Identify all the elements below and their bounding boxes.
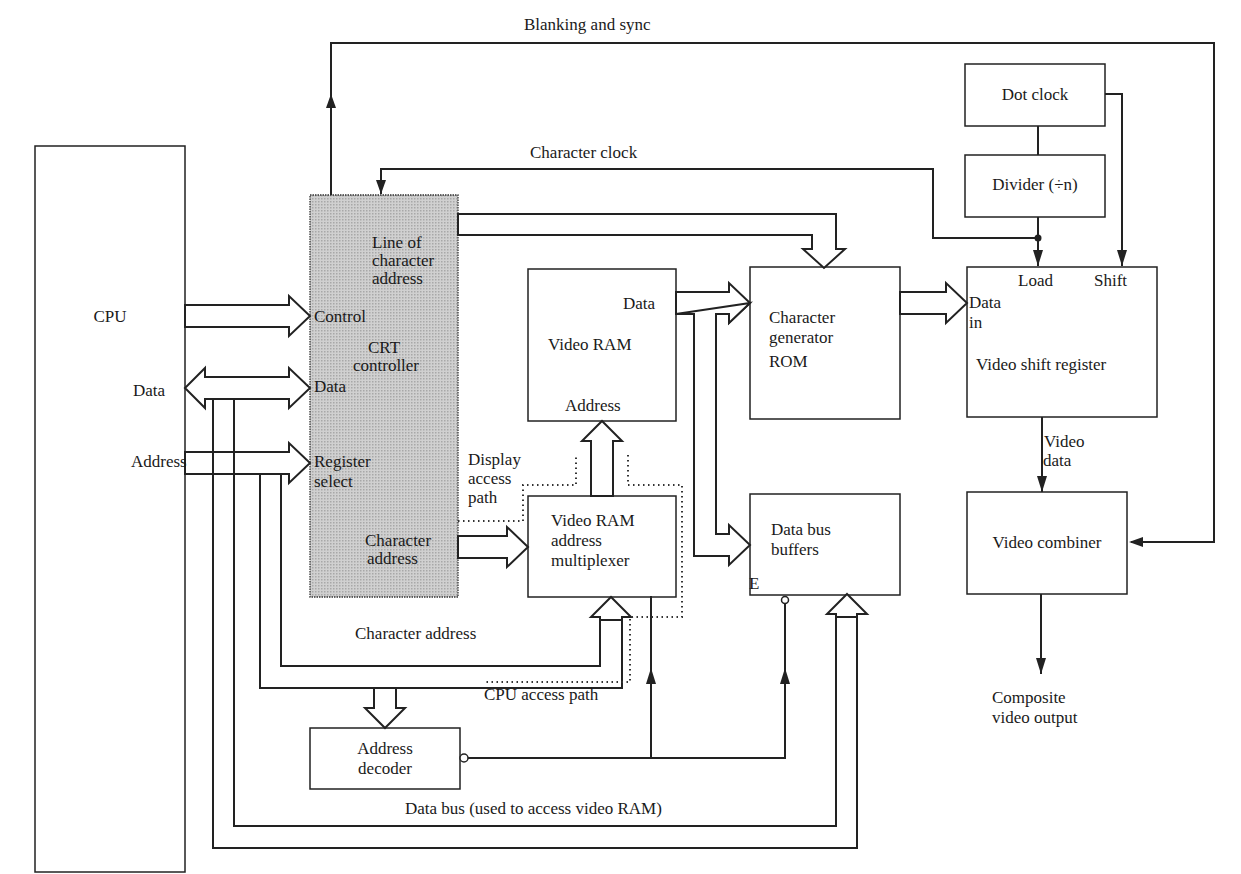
- display-access-path-label: Display: [468, 450, 521, 469]
- data-bus-buffers-block: Data bus buffers E: [749, 494, 900, 595]
- mux-label-3: multiplexer: [551, 551, 630, 570]
- char-rom-label-2: generator: [769, 328, 834, 347]
- cpu-control-bus: [185, 296, 310, 336]
- blanking-and-sync-label: Blanking and sync: [524, 15, 651, 34]
- decoder-enable-lines: [460, 596, 790, 762]
- video-display-block-diagram: CPU Line of character address Control CR…: [0, 0, 1241, 874]
- line-of-character-address-bus: [458, 214, 845, 268]
- crt-character-address-label-2: address: [367, 549, 418, 568]
- dot-clock-label: Dot clock: [1002, 85, 1069, 104]
- character-address-label: Character address: [355, 624, 476, 643]
- data-bus-buffers-label-2: buffers: [771, 540, 819, 559]
- crt-character-address-label: Character: [365, 531, 431, 550]
- register-select-label: Register: [314, 452, 371, 471]
- crt-controller-title: CRT: [368, 338, 401, 357]
- address-decoder-label-1: Address: [357, 739, 413, 758]
- divider-block: Divider (÷n): [965, 155, 1105, 217]
- shift-input-label: Shift: [1094, 271, 1127, 290]
- cpu-label: CPU: [93, 307, 126, 326]
- rom-to-shift-register-bus: [900, 283, 967, 323]
- display-access-path-label-3: path: [468, 488, 498, 507]
- line-of-character-address-label-2: character: [372, 251, 435, 270]
- display-access-path-label-2: access: [468, 469, 511, 488]
- enable-pin-label: E: [749, 574, 759, 593]
- crt-data-port-label: Data: [314, 377, 347, 396]
- char-rom-label-1: Character: [769, 308, 835, 327]
- character-generator-rom-block: Character generator ROM: [750, 267, 900, 419]
- video-ram-data-to-buffers-bus: [676, 303, 750, 565]
- video-ram-address-label: Address: [565, 396, 621, 415]
- address-decoder-block: Address decoder: [310, 728, 460, 789]
- composite-video-label-2: video output: [992, 708, 1078, 727]
- composite-video-output-line: [1036, 594, 1046, 674]
- divider-label: Divider (÷n): [992, 175, 1077, 194]
- video-ram-data-label: Data: [623, 294, 656, 313]
- address-to-decoder-bus: [260, 688, 405, 728]
- data-bus-label: Data bus (used to access video RAM): [405, 799, 662, 818]
- character-clock-label: Character clock: [530, 143, 638, 162]
- cpu-block: CPU: [35, 146, 185, 872]
- control-port-label: Control: [314, 307, 366, 326]
- char-rom-label-3: ROM: [769, 352, 808, 371]
- data-bus-buffers-label-1: Data bus: [771, 520, 831, 539]
- cpu-address-label: Address: [131, 452, 187, 471]
- video-ram-block: Data Video RAM Address: [528, 269, 676, 421]
- line-of-character-address-label: Line of: [372, 233, 422, 252]
- crt-controller-title-2: controller: [353, 356, 419, 375]
- video-data-label: Video: [1044, 432, 1085, 451]
- mux-label-2: address: [551, 531, 602, 550]
- address-decoder-label-2: decoder: [358, 759, 412, 778]
- video-shift-register-block: Load Shift Data in Video shift register: [967, 267, 1157, 417]
- composite-video-label: Composite: [992, 688, 1066, 707]
- data-in-label-2: in: [969, 313, 983, 332]
- video-combiner-block: Video combiner: [967, 492, 1127, 594]
- video-combiner-label: Video combiner: [993, 533, 1102, 552]
- video-shift-register-title: Video shift register: [976, 355, 1107, 374]
- line-of-character-address-label-3: address: [372, 269, 423, 288]
- data-in-label: Data: [969, 293, 1002, 312]
- mux-label-1: Video RAM: [551, 511, 635, 530]
- cpu-data-bus: [185, 368, 310, 408]
- register-select-bus: [185, 443, 310, 483]
- character-address-to-mux-bus: [458, 527, 528, 567]
- mux-to-video-ram-address-bus: [582, 421, 622, 496]
- address-multiplexer-block: Video RAM address multiplexer: [528, 496, 676, 597]
- cpu-access-path-label: CPU access path: [484, 685, 599, 704]
- video-data-label-2: data: [1043, 451, 1072, 470]
- dot-clock-block: Dot clock: [965, 64, 1105, 126]
- load-input-label: Load: [1018, 271, 1053, 290]
- video-ram-title: Video RAM: [548, 335, 632, 354]
- crt-controller-block: Line of character address Control CRT co…: [310, 195, 458, 597]
- cpu-data-label: Data: [133, 381, 166, 400]
- register-select-label-2: select: [314, 472, 353, 491]
